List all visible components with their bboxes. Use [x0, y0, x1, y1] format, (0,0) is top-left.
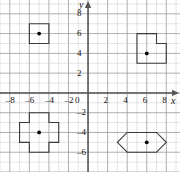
y-tick-label: –4 [77, 128, 86, 137]
shape-notched-square [137, 34, 166, 64]
coordinate-grid-figure: –8–6–4–2024688642–2–4–6xy [0, 0, 180, 172]
center-point-square [37, 32, 41, 36]
x-tick-label: 6 [143, 96, 148, 105]
y-axis-arrowhead [85, 1, 91, 8]
x-tick-label: 4 [123, 96, 128, 105]
x-tick-label: –6 [25, 96, 34, 105]
origin-tick-label: 0 [75, 96, 80, 105]
y-tick-label: –6 [77, 148, 86, 157]
y-tick-label: 4 [77, 49, 82, 58]
y-axis-label: y [79, 0, 83, 10]
coordinate-plane-svg [0, 0, 180, 172]
shape-outline-notched-square [137, 34, 166, 64]
y-tick-label: 6 [77, 29, 82, 38]
center-point-cross [37, 131, 41, 135]
y-tick-label: 2 [77, 69, 82, 78]
x-tick-label: 8 [162, 96, 167, 105]
x-tick-label: 2 [104, 96, 109, 105]
grid-lines [0, 0, 180, 172]
x-tick-label: –8 [6, 96, 15, 105]
y-tick-label: 8 [77, 9, 82, 18]
center-point-notched-square [145, 51, 149, 55]
center-point-hexagon [145, 140, 149, 144]
x-axis-label: x [171, 96, 175, 106]
x-tick-label: –4 [45, 96, 54, 105]
axes [0, 1, 179, 172]
y-tick-label: –2 [77, 108, 86, 117]
x-tick-label: –2 [64, 96, 73, 105]
